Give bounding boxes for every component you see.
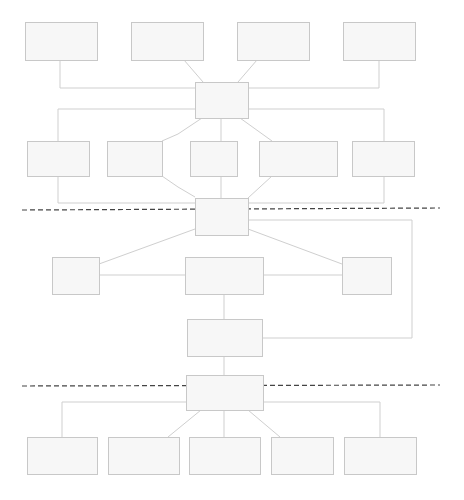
node-sec2-lower — [188, 320, 263, 357]
node-hub-1 — [196, 83, 249, 119]
node-box — [187, 376, 264, 411]
node-box — [26, 23, 98, 61]
node-mid-4 — [260, 142, 338, 177]
node-box — [196, 199, 249, 236]
diagram-nodes — [26, 23, 417, 475]
connector-hub1-loop-right — [248, 109, 384, 141]
node-hub-3 — [187, 376, 264, 411]
node-bot-4 — [272, 438, 334, 475]
node-box — [272, 438, 334, 475]
node-box — [196, 83, 249, 119]
node-bot-3 — [190, 438, 261, 475]
connector-hub3-bot1 — [62, 402, 186, 437]
node-bot-1 — [28, 438, 98, 475]
node-top-2 — [132, 23, 204, 61]
connector-hub3-bot5 — [263, 402, 380, 437]
connector-hub2-left — [99, 229, 195, 264]
connector-hub3-bot4 — [248, 410, 280, 437]
connector-hub1-mid2 — [162, 118, 202, 141]
connector-mid5-hub2 — [248, 176, 384, 203]
node-box — [186, 258, 264, 295]
node-box — [53, 258, 100, 295]
node-mid-3 — [191, 142, 238, 177]
node-top-3 — [238, 23, 310, 61]
node-box — [190, 438, 261, 475]
node-box — [260, 142, 338, 177]
node-mid-2 — [108, 142, 163, 177]
connector-top3-hub1 — [238, 60, 257, 82]
hierarchy-diagram — [0, 0, 464, 500]
node-box — [238, 23, 310, 61]
connector-hub1-loop-left — [58, 109, 195, 141]
node-sec2-center — [186, 258, 264, 295]
node-bot-2 — [109, 438, 180, 475]
node-box — [344, 23, 416, 61]
node-box — [345, 438, 417, 475]
node-hub-2 — [196, 199, 249, 236]
connector-mid1-hub2 — [58, 176, 195, 203]
node-bot-5 — [345, 438, 417, 475]
node-box — [188, 320, 263, 357]
node-sec2-right — [343, 258, 392, 295]
node-top-4 — [344, 23, 416, 61]
connector-top1-hub1 — [60, 60, 195, 88]
connector-hub1-mid4 — [240, 118, 272, 141]
node-box — [191, 142, 238, 177]
node-box — [28, 142, 90, 177]
node-sec2-left — [53, 258, 100, 295]
node-box — [108, 142, 163, 177]
node-mid-5 — [353, 142, 415, 177]
node-box — [353, 142, 415, 177]
node-box — [109, 438, 180, 475]
node-mid-1 — [28, 142, 90, 177]
node-box — [132, 23, 204, 61]
node-box — [28, 438, 98, 475]
node-top-1 — [26, 23, 98, 61]
connector-mid4-hub2 — [248, 176, 272, 198]
node-box — [343, 258, 392, 295]
connector-hub3-bot2 — [168, 410, 201, 437]
connector-top2-hub1 — [184, 60, 203, 82]
connector-top4-hub1 — [248, 60, 379, 88]
connector-mid2-hub2 — [162, 176, 195, 197]
